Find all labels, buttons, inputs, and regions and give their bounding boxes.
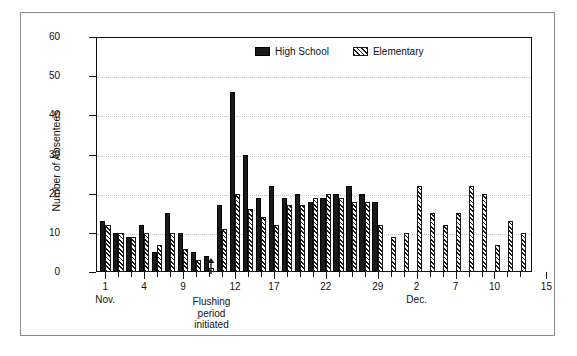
bar-high-school-15: [295, 194, 300, 272]
bar-elementary-32: [521, 233, 526, 272]
legend-swatch-high-school: [255, 47, 270, 56]
x-month-label-Dec: Dec.: [394, 294, 440, 305]
x-minor-tick-16: [313, 272, 314, 277]
y-tick-label-50: 50: [30, 71, 60, 81]
legend-swatch-elementary: [353, 47, 368, 56]
x-tick-label-22: 22: [306, 281, 346, 292]
bar-elementary-16: [313, 198, 318, 272]
flushing-note-line: period: [169, 308, 253, 320]
x-minor-tick-20: [365, 272, 366, 277]
x-minor-tick-17: [326, 272, 327, 277]
bar-high-school-18: [333, 194, 338, 272]
bar-elementary-4: [157, 245, 162, 272]
bar-high-school-21: [372, 202, 377, 273]
x-minor-tick-22: [391, 272, 392, 277]
bar-elementary-31: [508, 221, 513, 272]
bar-high-school-1: [113, 233, 118, 272]
chart-legend: High School Elementary: [255, 46, 424, 57]
x-minor-tick-3: [144, 272, 145, 277]
y-tick-label-20: 20: [30, 189, 60, 199]
x-minor-tick-27: [456, 272, 457, 277]
bar-elementary-5: [170, 233, 175, 272]
x-axis-ticks: 1Nov.49121722292Dec.71015: [96, 272, 532, 332]
x-minor-tick-0: [105, 272, 106, 277]
bar-elementary-2: [131, 237, 136, 272]
x-tick-label-29: 29: [358, 281, 398, 292]
bar-elementary-29: [482, 194, 487, 272]
bar-high-school-13: [269, 186, 274, 272]
bar-elementary-17: [326, 194, 331, 272]
legend-item-elementary: Elementary: [353, 46, 424, 57]
x-tick-mark-15: [546, 272, 547, 279]
x-minor-tick-21: [378, 272, 379, 277]
y-tick-mark-0: [89, 272, 96, 273]
x-minor-tick-23: [404, 272, 405, 277]
bar-high-school-6: [178, 233, 183, 272]
bar-elementary-15: [300, 205, 305, 272]
x-minor-tick-14: [287, 272, 288, 277]
x-minor-tick-7: [196, 272, 197, 277]
bars-layer: [96, 37, 532, 272]
x-minor-tick-9: [222, 272, 223, 277]
x-tick-label-17: 17: [254, 281, 294, 292]
bar-high-school-20: [359, 194, 364, 272]
x-minor-tick-31: [507, 272, 508, 277]
y-tick-label-0: 0: [30, 267, 60, 277]
x-tick-label-2: 2: [397, 281, 437, 292]
bar-high-school-12: [256, 198, 261, 272]
x-tick-label-10: 10: [474, 281, 514, 292]
x-minor-tick-28: [469, 272, 470, 277]
bar-high-school-19: [346, 186, 351, 272]
x-minor-tick-4: [157, 272, 158, 277]
flushing-arrow-icon: [205, 258, 217, 274]
x-tick-label-4: 4: [124, 281, 164, 292]
bar-high-school-11: [243, 155, 248, 273]
x-minor-tick-11: [248, 272, 249, 277]
bar-elementary-27: [456, 213, 461, 272]
bar-elementary-20: [365, 202, 370, 273]
x-minor-tick-26: [443, 272, 444, 277]
x-tick-label-1: 1: [85, 281, 125, 292]
bar-elementary-10: [235, 194, 240, 272]
bar-high-school-5: [165, 213, 170, 272]
bar-elementary-28: [469, 186, 474, 272]
legend-label-elementary: Elementary: [373, 46, 424, 57]
flushing-note-line: initiated: [169, 319, 253, 331]
x-minor-tick-32: [520, 272, 521, 277]
y-axis-label: Number of Absentees: [50, 71, 62, 251]
x-minor-tick-18: [339, 272, 340, 277]
bar-high-school-0: [100, 221, 105, 272]
x-minor-tick-24: [417, 272, 418, 277]
bar-high-school-17: [320, 198, 325, 272]
flushing-note-line: Flushing: [169, 296, 253, 308]
bar-elementary-12: [261, 217, 266, 272]
legend-label-high-school: High School: [275, 46, 329, 57]
bar-elementary-9: [222, 229, 227, 272]
x-minor-tick-10: [235, 272, 236, 277]
y-tick-label-60: 60: [30, 32, 60, 42]
bar-high-school-14: [282, 198, 287, 272]
x-minor-tick-30: [494, 272, 495, 277]
x-minor-tick-12: [261, 272, 262, 277]
bar-elementary-26: [443, 225, 448, 272]
y-tick-label-40: 40: [30, 110, 60, 120]
bar-elementary-23: [404, 233, 409, 272]
y-tick-label-30: 30: [30, 150, 60, 160]
x-minor-tick-5: [170, 272, 171, 277]
absentees-bar-chart: Number of Absentees 0102030405060 1Nov.4…: [0, 0, 577, 356]
bar-elementary-1: [118, 233, 123, 272]
bar-elementary-6: [183, 249, 188, 273]
x-minor-tick-25: [430, 272, 431, 277]
x-minor-tick-6: [183, 272, 184, 277]
x-tick-label-7: 7: [436, 281, 476, 292]
bar-elementary-3: [144, 233, 149, 272]
x-minor-tick-15: [300, 272, 301, 277]
legend-item-high-school: High School: [255, 46, 329, 57]
bar-elementary-0: [105, 225, 110, 272]
bar-high-school-4: [152, 252, 157, 272]
x-minor-tick-13: [274, 272, 275, 277]
y-tick-mark-10: [89, 233, 96, 234]
bar-elementary-14: [287, 205, 292, 272]
bar-elementary-21: [378, 225, 383, 272]
bar-high-school-3: [139, 225, 144, 272]
